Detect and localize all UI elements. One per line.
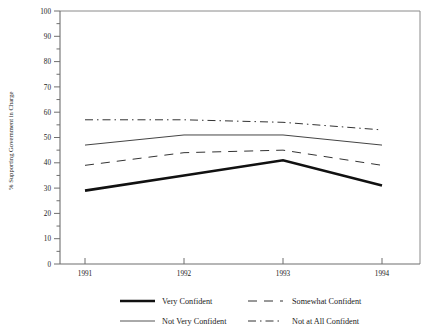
y-tick-label: 100 — [40, 8, 51, 16]
y-axis-title: % Supporting Government in Charge — [7, 92, 14, 190]
y-tick-label: 50 — [44, 134, 52, 142]
series-line-not-very-confident — [85, 135, 382, 145]
x-tick-label: 1992 — [177, 270, 192, 278]
legend-label: Not Very Confident — [162, 317, 227, 326]
y-tick-label: 20 — [44, 210, 52, 218]
series-line-somewhat-confident — [85, 150, 382, 165]
chart-legend: Very Confident Somewhat Confident Not Ve… — [120, 297, 362, 326]
legend-label: Somewhat Confident — [292, 297, 362, 306]
data-series-layer — [85, 120, 382, 191]
line-chart-svg: 100 90 80 70 60 50 40 30 20 10 0 % Suppo… — [0, 0, 431, 330]
y-axis-tick-labels: 100 90 80 70 60 50 40 30 20 10 0 — [40, 8, 51, 269]
y-tick-label: 40 — [44, 159, 52, 167]
legend-item-very-confident: Very Confident — [120, 297, 213, 306]
series-line-not-at-all-confident — [85, 120, 382, 130]
y-tick-label: 30 — [44, 185, 52, 193]
x-tick-label: 1993 — [276, 270, 291, 278]
y-tick-label: 90 — [44, 33, 52, 41]
legend-item-not-very-confident: Not Very Confident — [120, 317, 227, 326]
plot-frame — [60, 11, 420, 264]
legend-item-somewhat-confident: Somewhat Confident — [248, 297, 362, 306]
x-axis-tick-labels: 1991 1992 1993 1994 — [78, 270, 390, 278]
y-tick-label: 0 — [47, 261, 51, 269]
legend-item-not-at-all-confident: Not at All Confident — [248, 317, 360, 326]
x-tick-label: 1994 — [375, 270, 390, 278]
x-axis-ticks — [85, 258, 382, 264]
x-tick-label: 1991 — [78, 270, 93, 278]
series-line-very-confident — [85, 160, 382, 190]
y-tick-label: 60 — [44, 109, 52, 117]
chart-figure: 100 90 80 70 60 50 40 30 20 10 0 % Suppo… — [0, 0, 431, 330]
legend-label: Not at All Confident — [292, 317, 360, 326]
y-tick-label: 10 — [44, 235, 52, 243]
y-tick-label: 80 — [44, 58, 52, 66]
y-tick-label: 70 — [44, 84, 52, 92]
legend-label: Very Confident — [162, 297, 213, 306]
